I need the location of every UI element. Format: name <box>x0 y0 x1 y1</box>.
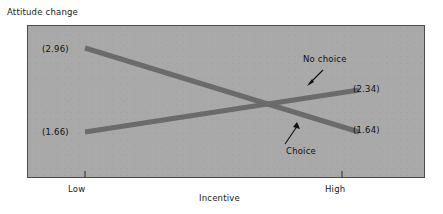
y-axis-title: Attitude change <box>7 7 78 17</box>
chart-figure: Attitude change (2.96) (1.66) (2.34) <box>0 0 443 214</box>
series-annotation-nochoice: No choice <box>303 54 347 64</box>
data-label-low-choice: (2.96) <box>42 44 69 54</box>
data-label-low-nochoice: (1.66) <box>42 127 69 137</box>
data-label-high-nochoice: (2.34) <box>353 84 380 94</box>
plot-area: (2.96) (1.66) (2.34) (1.64) No choice Ch… <box>27 25 425 178</box>
x-tick-label-high: High <box>325 184 345 194</box>
series-annotation-choice: Choice <box>286 146 316 156</box>
plot-lines <box>28 26 426 179</box>
data-label-high-choice: (1.64) <box>353 125 380 135</box>
x-axis-title: Incentive <box>199 193 240 203</box>
annotation-arrow-nochoice <box>307 70 323 86</box>
annotation-arrow-choice <box>285 122 300 144</box>
x-tick-label-low: Low <box>68 184 85 194</box>
series-line-nochoice <box>85 90 359 132</box>
